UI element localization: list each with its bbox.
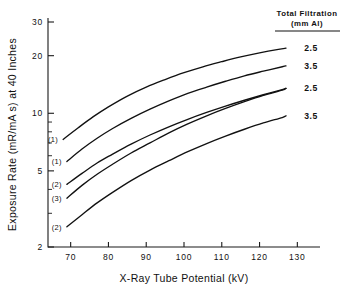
data-curve-curve-5	[67, 116, 286, 227]
legend-value-curve-1: 2.5	[304, 43, 318, 53]
legend-value-curve-5: 3.5	[304, 111, 318, 121]
curve-tag-curve-1: (1)	[48, 135, 58, 144]
y-axis-title: Exposure Rate (mR/mA s) at 40 Inches	[6, 38, 18, 231]
y-tick-label: 30	[32, 17, 43, 27]
chart-figure: 25102030708090100110120130(1)(1)(2)(3)(2…	[0, 0, 352, 293]
x-tick-label: 110	[214, 252, 230, 262]
data-curve-curve-1	[63, 48, 286, 139]
curve-tag-curve-2: (1)	[52, 157, 62, 166]
legend-title-line1: Total Filtration	[277, 9, 338, 18]
y-tick-label: 10	[32, 108, 43, 118]
curve-tag-curve-4: (3)	[52, 194, 62, 203]
y-tick-label: 2	[37, 242, 43, 252]
x-tick-label: 100	[176, 252, 193, 262]
legend-title-line2: (mm Al)	[291, 19, 323, 28]
x-axis-title: X-Ray Tube Potential (kV)	[120, 272, 249, 284]
data-curve-curve-4	[67, 88, 286, 198]
x-tick-label: 90	[141, 252, 152, 262]
data-curve-curve-2	[67, 66, 286, 162]
legend-value-curve-3: 2.5	[304, 83, 318, 93]
x-tick-label: 120	[251, 252, 268, 262]
curve-tag-curve-5: (2)	[52, 223, 62, 232]
x-tick-label: 80	[103, 252, 114, 262]
axis-lines	[48, 18, 320, 247]
x-tick-label: 130	[289, 252, 306, 262]
y-tick-label: 20	[32, 51, 43, 61]
x-tick-label: 70	[65, 252, 76, 262]
legend-value-curve-2: 3.5	[304, 61, 318, 71]
curve-tag-curve-3: (2)	[52, 180, 62, 189]
y-tick-label: 5	[37, 166, 43, 176]
chart-plot-area: 25102030708090100110120130(1)(1)(2)(3)(2…	[0, 0, 352, 293]
